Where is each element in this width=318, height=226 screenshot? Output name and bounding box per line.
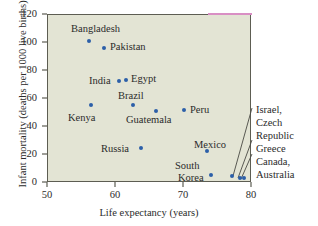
x-tick-label: 50	[34, 190, 60, 201]
point-label-guatemala: Guatemala	[126, 114, 171, 126]
point-label-pakistan: Pakistan	[110, 41, 146, 53]
callout-label-greece: Greece	[256, 143, 286, 155]
x-axis-title: Life expectancy (years)	[47, 207, 251, 218]
point-label-russia: Russia	[101, 143, 129, 155]
y-axis-ticks	[42, 14, 47, 182]
callout-label-canada: Canada,	[256, 156, 290, 168]
x-tick-label: 70	[170, 190, 196, 201]
callout-leader-lines	[233, 108, 252, 179]
callout-label-czech: Czech	[256, 117, 282, 129]
point-label-mexico: Mexico	[194, 139, 226, 151]
callout-label-republic: Republic	[256, 130, 294, 142]
point-label-egypt: Egypt	[131, 73, 156, 85]
callout-label-israel: Israel,	[256, 104, 282, 116]
point-label-peru: Peru	[190, 104, 209, 116]
point-label-korea: Korea	[178, 172, 204, 184]
x-tick-label: 60	[102, 190, 128, 201]
point-label-bangladesh: Bangladesh	[71, 23, 120, 35]
point-label-kenya: Kenya	[68, 112, 95, 124]
x-axis-ticks	[47, 182, 251, 187]
point-label-south: South	[175, 160, 200, 172]
x-tick-label: 80	[238, 190, 264, 201]
scatter-plot-figure: 0 20 40 60 80 100 120 50 60 70 80 Life e…	[0, 0, 318, 226]
point-label-brazil: Brazil	[118, 90, 144, 102]
y-axis-title: Infant mortality (deaths per 1000 live b…	[17, 4, 28, 188]
point-label-india: India	[89, 75, 111, 87]
callout-label-australia: Australia	[256, 169, 295, 181]
